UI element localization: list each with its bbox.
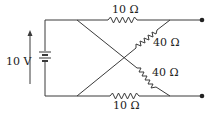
- resistor-top-icon: [108, 17, 137, 23]
- circuit-diagram: 10 V 10 Ω 10 Ω 40 Ω 40 Ω: [0, 0, 213, 115]
- resistor-top-label: 10 Ω: [112, 3, 139, 16]
- terminal-top-dot-icon: [200, 18, 205, 23]
- resistor-bottom-label: 10 Ω: [113, 99, 140, 112]
- top-branch: [77, 17, 204, 23]
- terminal-bottom-dot-icon: [200, 94, 205, 99]
- battery-icon: [39, 52, 51, 61]
- resistor-diag-upper-label: 40 Ω: [153, 36, 180, 49]
- bottom-branch: [77, 93, 204, 99]
- voltage-label: 10 V: [6, 55, 32, 68]
- resistor-diag-lower-label: 40 Ω: [152, 66, 179, 79]
